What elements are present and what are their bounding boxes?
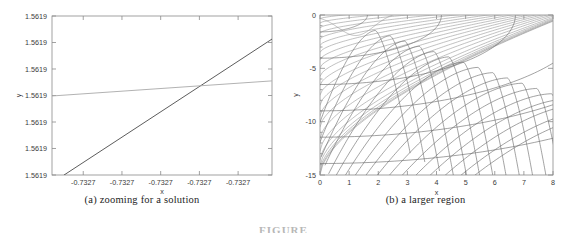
figure-number-label: FIGURE (0, 224, 567, 233)
x-tick-label-a: -0.7327 (110, 178, 134, 187)
figure-panel-b: 0123456780-5-10-15xy (b) a larger region (284, 0, 567, 233)
y-tick-label-a: 1.5619 (25, 171, 47, 180)
x-tick-label-b: 1 (347, 178, 351, 187)
y-axis-title-b: y (291, 93, 300, 97)
figure-panel-a: 1.56191.56191.56191.56191.56191.56191.56… (0, 0, 284, 233)
x-tick-label-b: 5 (464, 178, 468, 187)
figure-container: 1.56191.56191.56191.56191.56191.56191.56… (0, 0, 567, 233)
steep-characteristic-12 (408, 94, 567, 185)
x-tick-label-b: 2 (376, 178, 380, 187)
y-tick-label-a: 1.5619 (25, 144, 47, 153)
shallow-characteristic-21 (320, 21, 553, 175)
y-tick-label-b: 0 (312, 11, 316, 20)
steep-characteristic-5 (332, 57, 481, 184)
y-tick-label-b: -15 (306, 171, 316, 180)
x-tick-label-a: -0.7327 (148, 178, 172, 187)
x-tick-label-b: 4 (435, 178, 439, 187)
y-tick-label-a: 1.5619 (25, 91, 47, 100)
shallow-characteristic-13 (320, 14, 551, 115)
x-tick-label-b: 8 (551, 178, 555, 187)
y-tick-label-b: -10 (306, 117, 316, 126)
plot-a-frame (52, 16, 272, 175)
y-tick-label-a: 1.5619 (25, 38, 47, 47)
steep-characteristic-7 (349, 67, 508, 185)
curve-steep-line (64, 39, 272, 175)
plot-a-series-group (52, 39, 272, 175)
shallow-characteristic-1 (320, 14, 395, 23)
x-tick-label-a: -0.7327 (226, 178, 250, 187)
plot-a-canvas: 1.56191.56191.56191.56191.56191.56191.56… (0, 0, 284, 190)
y-tick-label-a: 1.5619 (25, 65, 47, 74)
y-tick-label-a: 1.5619 (25, 12, 47, 21)
x-tick-label-a: -0.7327 (187, 178, 211, 187)
x-tick-label-b: 7 (522, 178, 526, 187)
plot-b-curves-group (314, 14, 567, 186)
panel-a-caption: (a) zooming for a solution (0, 194, 284, 205)
curve-shallow-line (52, 81, 272, 96)
steep-characteristic-11 (393, 88, 561, 185)
panel-b-caption: (b) a larger region (284, 194, 567, 205)
y-tick-label-a: 1.5619 (25, 118, 47, 127)
x-tick-label-a: -0.7327 (71, 178, 95, 187)
y-axis-title-a: y (14, 93, 23, 97)
x-tick-label-b: 3 (405, 178, 409, 187)
y-tick-label-b: -5 (310, 64, 316, 73)
x-tick-label-b: 0 (318, 178, 322, 187)
plot-b-canvas: 0123456780-5-10-15xy (284, 0, 567, 190)
x-tick-label-b: 6 (493, 178, 497, 187)
